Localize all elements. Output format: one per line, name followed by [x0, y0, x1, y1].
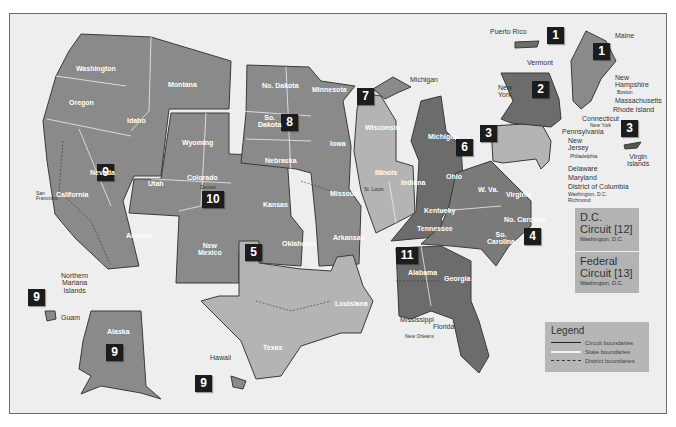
circuit-11-badge: 11: [396, 247, 418, 264]
state-label-new-york: NewYork: [498, 84, 512, 99]
legend-item-district: District boundaries: [551, 356, 643, 365]
state-label-missouri: Missouri: [330, 190, 359, 197]
state-label-kansas: Kansas: [263, 201, 288, 208]
circuit-2-badge: 2: [532, 81, 549, 98]
state-label-no-carolina: No. Carolina: [504, 216, 545, 223]
state-label-new-jersey-line1: New: [568, 137, 582, 144]
circuit-9-badge-hawaii: 9: [195, 375, 212, 392]
state-label-idaho: Idaho: [127, 117, 146, 124]
circuit-2-region: [501, 73, 561, 127]
state-label-arkansas: Arkansas: [333, 234, 365, 241]
state-label-mississippi: Mississippi: [400, 316, 434, 323]
legend-item-state: State boundaries: [551, 347, 643, 356]
legend-label-state: State boundaries: [585, 349, 630, 355]
state-label-michigan-up: Michigan: [410, 76, 438, 83]
state-label-so-dakota-line2: Dakota: [258, 121, 281, 128]
state-label-washington: Washington: [76, 65, 116, 72]
territory-label-virgin-islands: VirginIslands: [627, 153, 649, 168]
state-label-alabama: Alabama: [408, 269, 437, 276]
state-label-oregon: Oregon: [69, 99, 94, 106]
circuit-map: 9 10 8 7 6 5 11 4 3 3 2 1 1 9 9 9 Washin…: [9, 13, 667, 414]
state-label-kentucky: Kentucky: [424, 207, 456, 214]
state-label-montana: Montana: [168, 81, 197, 88]
federal-circuit-seat: Washington, D.C.: [580, 280, 634, 286]
state-label-new-hampshire: NewHampshire: [615, 74, 649, 89]
guam-shape: [45, 311, 56, 321]
legend: Legend Circuit boundaries State boundari…: [545, 322, 649, 372]
hawaii-shape: [231, 376, 246, 389]
state-label-ohio: Ohio: [446, 173, 462, 180]
territory-label-nmi-line3: Islands: [64, 287, 86, 294]
state-label-iowa: Iowa: [330, 140, 346, 147]
state-label-new-mexico: NewMexico: [198, 242, 222, 257]
legend-label-district: District boundaries: [585, 358, 635, 364]
state-label-new-jersey-line2: Jersey: [568, 144, 589, 151]
city-label-st-louis: St. Louis: [364, 187, 383, 192]
state-label-nevada: Nevada: [90, 169, 115, 176]
state-label-wisconsin: Wisconsin: [365, 124, 400, 131]
legend-item-circuit: Circuit boundaries: [551, 338, 643, 347]
state-label-minnesota: Minnesota: [312, 86, 347, 93]
state-label-delaware: Delaware: [568, 165, 598, 172]
city-label-philadelphia: Philadelphia: [570, 154, 597, 159]
state-label-louisiana: Louisiana: [335, 300, 368, 307]
city-label-boston: Boston: [617, 90, 633, 95]
state-label-new-jersey: NewJersey: [568, 137, 589, 152]
territory-label-virgin-islands-line2: Islands: [627, 160, 649, 167]
state-label-colorado: Colorado: [187, 174, 218, 181]
state-label-new-hampshire-line2: Hampshire: [615, 81, 649, 88]
state-label-pennsylvania: Pennsylvania: [562, 128, 604, 135]
state-label-so-carolina-line2: Carolina: [487, 238, 515, 245]
district-boundary-swatch-icon: [551, 360, 581, 361]
territory-label-northern-mariana: NorthernMarianaIslands: [61, 272, 88, 294]
state-label-new-mexico-line1: New: [203, 242, 217, 249]
circuit-9-badge-alaska: 9: [106, 344, 123, 361]
state-label-new-hampshire-line1: New: [615, 74, 629, 81]
state-label-new-york-line2: York: [498, 91, 512, 98]
city-label-san-francisco: SanFrancisco: [36, 191, 58, 202]
state-label-no-dakota: No. Dakota: [262, 82, 299, 89]
circuit-7-badge: 7: [357, 88, 374, 105]
circuit-8-badge: 8: [281, 114, 298, 131]
state-label-florida: Florida: [433, 323, 454, 330]
state-label-massachusetts: Massachusetts: [615, 97, 662, 104]
state-boundary-swatch-icon: [551, 351, 581, 353]
territory-label-guam: Guam: [61, 314, 80, 321]
state-label-maine: Maine: [615, 32, 634, 39]
state-label-georgia: Georgia: [444, 275, 470, 282]
federal-circuit-name-line1: Federal: [580, 255, 634, 267]
city-label-new-york: New York: [590, 123, 611, 128]
city-label-sf-line2: Francisco: [36, 195, 58, 201]
legend-label-circuit: Circuit boundaries: [585, 340, 633, 346]
state-label-new-york-line1: New: [498, 84, 512, 91]
state-label-california: California: [56, 191, 88, 198]
circuit-7-region: [354, 93, 415, 233]
city-label-new-orleans: New Orleans: [405, 334, 434, 339]
territory-label-virgin-islands-line1: Virgin: [629, 153, 647, 160]
circuit-3-badge: 3: [480, 125, 497, 142]
territory-label-puerto-rico: Puerto Rico: [490, 28, 527, 35]
dc-circuit-name-line2: Circuit [12]: [580, 223, 634, 235]
federal-circuit-box: Federal Circuit [13] Washington, D.C.: [575, 252, 639, 293]
dc-circuit-seat: Washington, D.C.: [580, 236, 634, 242]
state-label-vermont: Vermont: [527, 59, 553, 66]
state-label-oklahoma: Oklahoma: [282, 240, 316, 247]
state-label-so-dakota: So.Dakota: [258, 114, 281, 129]
state-label-new-mexico-line2: Mexico: [198, 249, 222, 256]
state-label-utah: Utah: [148, 180, 164, 187]
circuit-10-badge: 10: [202, 191, 224, 208]
circuit-1-badge-puerto-rico: 1: [547, 27, 564, 44]
state-label-alaska: Alaska: [107, 328, 130, 335]
state-label-indiana: Indiana: [401, 179, 426, 186]
state-label-maryland: Maryland: [568, 174, 597, 181]
state-label-texas: Texas: [263, 344, 282, 351]
state-label-michigan: Michigan: [428, 133, 458, 140]
state-label-rhode-island: Rhode Island: [613, 106, 654, 113]
city-label-denver: Denver: [200, 185, 216, 190]
state-label-wva: W. Va.: [478, 186, 498, 193]
state-label-so-carolina-line1: So.: [496, 231, 507, 238]
circuit-6-badge: 6: [456, 139, 473, 156]
state-label-wyoming: Wyoming: [182, 139, 213, 146]
circuit-5-badge: 5: [245, 244, 262, 261]
virgin-islands-shape: [624, 142, 641, 149]
